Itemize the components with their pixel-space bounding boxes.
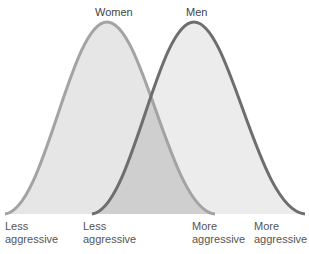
label-line: aggressive (83, 233, 136, 246)
label-line: More (254, 220, 307, 233)
label-line: aggressive (254, 233, 307, 246)
label-line: Less (5, 220, 58, 233)
women-label: Women (95, 6, 133, 18)
label-line: aggressive (5, 233, 58, 246)
distribution-diagram (0, 0, 309, 254)
men-less-aggressive-label: Less aggressive (83, 220, 136, 246)
men-more-aggressive-label: More aggressive (254, 220, 307, 246)
label-line: Less (83, 220, 136, 233)
label-line: aggressive (192, 233, 245, 246)
women-less-aggressive-label: Less aggressive (5, 220, 58, 246)
label-line: More (192, 220, 245, 233)
men-label: Men (186, 6, 207, 18)
women-more-aggressive-label: More aggressive (192, 220, 245, 246)
